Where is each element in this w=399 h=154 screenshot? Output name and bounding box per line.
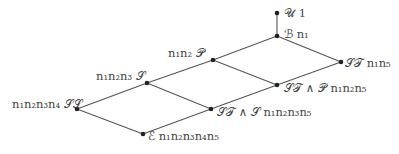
- node-STP: [275, 83, 280, 88]
- edge-S-STS: [147, 83, 211, 109]
- node-E: [141, 132, 146, 137]
- edge-P-STP: [213, 60, 277, 85]
- node-STS: [209, 107, 214, 112]
- label-STP: 𝒮𝒯 ∧ 𝒫 n₁n₂n₅: [284, 82, 366, 94]
- label-S: n₁n₂n₃ 𝒮: [96, 70, 145, 82]
- node-S: [145, 81, 150, 86]
- label-STS: 𝒮𝒯 ∧ 𝒮 n₁n₂n₃n₅: [217, 106, 311, 118]
- label-SS: n₁n₂n₃n₄ 𝒮𝒮: [12, 98, 82, 110]
- label-E: ℰ n₁n₂n₃n₄n₅: [148, 130, 219, 142]
- label-B: ℬ n₁: [284, 28, 309, 40]
- label-ST: 𝒮𝒯 n₁n₅: [345, 57, 391, 69]
- node-ST: [339, 60, 344, 65]
- edge-S-SS: [77, 83, 147, 109]
- edge-SS-E: [77, 109, 143, 134]
- edge-P-S: [147, 60, 213, 83]
- edge-B-P: [213, 36, 277, 60]
- node-U: [275, 11, 280, 16]
- label-P: n₁n₂ 𝒫: [168, 47, 205, 59]
- node-B: [275, 34, 280, 39]
- node-P: [211, 58, 216, 63]
- label-U: 𝒰 1: [284, 7, 306, 19]
